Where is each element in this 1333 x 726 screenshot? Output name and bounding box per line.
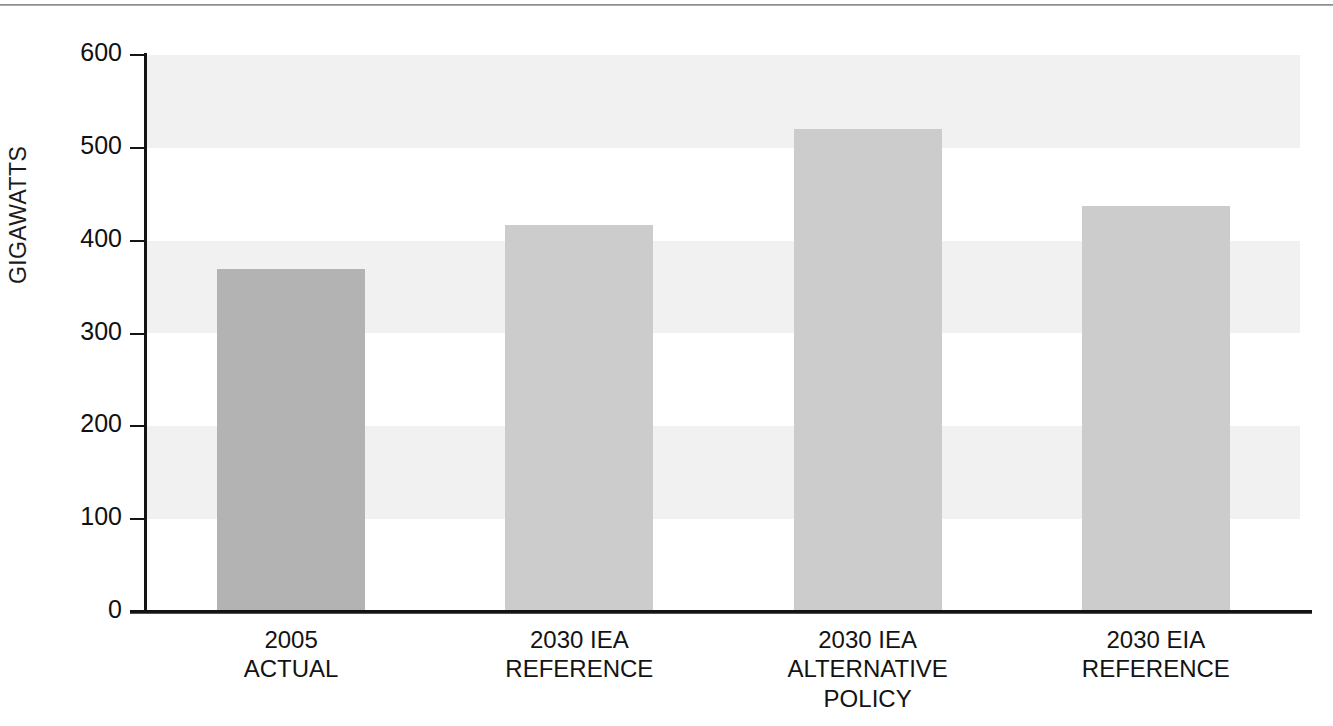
y-axis-title: GIGAWATTS <box>0 84 36 284</box>
y-axis-tick-label: 0 <box>2 597 122 622</box>
bar <box>217 269 365 612</box>
bars-layer <box>147 55 1300 612</box>
y-axis-line <box>144 53 147 614</box>
x-axis-category-label: 2030 EIA REFERENCE <box>996 625 1316 684</box>
y-axis-tick-label: 200 <box>2 411 122 436</box>
y-axis-tick-label: 300 <box>2 319 122 344</box>
x-axis-category-label: 2030 IEA REFERENCE <box>419 625 739 684</box>
y-axis-tick-label: 600 <box>2 40 122 65</box>
top-divider-rule <box>0 4 1333 6</box>
x-axis-category-label: 2005 ACTUAL <box>131 625 451 684</box>
y-axis-tick-label: 400 <box>2 226 122 251</box>
bar <box>794 129 942 612</box>
y-axis-tick-label: 500 <box>2 133 122 158</box>
bar <box>505 225 653 612</box>
chart-figure: GIGAWATTS 6005004003002001000 2005 ACTUA… <box>0 0 1333 726</box>
x-axis-line <box>130 610 1312 614</box>
y-axis-tick-label: 100 <box>2 504 122 529</box>
bar <box>1082 206 1230 612</box>
x-axis-category-label: 2030 IEA ALTERNATIVE POLICY <box>708 625 1028 713</box>
